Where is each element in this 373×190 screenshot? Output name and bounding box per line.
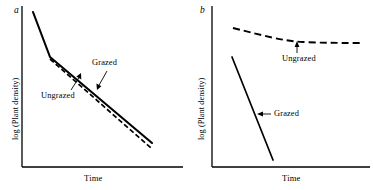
panel-b-series-ungrazed xyxy=(233,28,363,43)
panel-a-grazed-arrow xyxy=(96,71,107,90)
panel-b-ungrazed-arrow xyxy=(295,41,300,53)
panel-a: a log (Plant density) Time Grazed Ungraz xyxy=(0,0,186,190)
panel-b-annotation-ungrazed: Ungrazed xyxy=(282,55,316,63)
panel-b-x-axis-label: Time xyxy=(282,174,301,183)
panel-b-annotation-grazed: Grazed xyxy=(274,110,299,118)
panel-a-series-grazed xyxy=(33,12,152,143)
panel-b: b log (Plant density) Time Ungrazed Graz xyxy=(187,0,373,190)
panel-a-plot xyxy=(0,0,186,190)
panel-a-annotation-grazed: Grazed xyxy=(92,59,117,67)
panel-a-x-axis-label: Time xyxy=(84,174,103,183)
panel-a-series-ungrazed xyxy=(50,59,151,148)
panel-b-plot xyxy=(187,0,373,190)
panel-b-series-grazed xyxy=(232,57,273,160)
panel-a-annotation-ungrazed: Ungrazed xyxy=(41,92,75,100)
figure: a log (Plant density) Time Grazed Ungraz xyxy=(0,0,373,190)
panel-a-y-axis-label: log (Plant density) xyxy=(12,78,20,140)
panel-b-grazed-arrow xyxy=(257,112,271,117)
panel-b-y-axis-label: log (Plant density) xyxy=(198,78,206,140)
